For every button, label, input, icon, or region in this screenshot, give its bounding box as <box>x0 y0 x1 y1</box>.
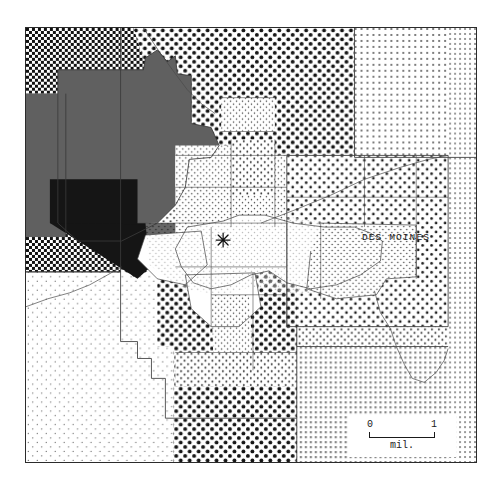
region-township-b <box>231 139 275 195</box>
region-south-strip <box>173 418 296 462</box>
map-frame: DES MOINES 0 1 mil. <box>25 27 477 463</box>
scale-bar: 0 1 mil. <box>348 415 456 457</box>
region-township-c <box>221 98 275 132</box>
choropleth-map-canvas <box>26 28 476 462</box>
region-township-a <box>175 145 231 187</box>
scale-bar-unit-label: mil. <box>349 440 455 451</box>
map-region-layer <box>26 28 476 462</box>
region-south-lightrect <box>175 353 296 387</box>
map-screenshot: DES MOINES 0 1 mil. <box>0 0 501 488</box>
scale-bar-labels: 0 1 <box>367 419 437 430</box>
star-marker[interactable] <box>216 233 230 247</box>
scale-bar-min-label: 0 <box>367 419 373 430</box>
city-label-des-moines: DES MOINES <box>362 232 430 243</box>
region-far-east-grid <box>448 28 476 462</box>
scale-bar-max-label: 1 <box>431 419 437 430</box>
scale-bar-rule <box>369 432 435 438</box>
